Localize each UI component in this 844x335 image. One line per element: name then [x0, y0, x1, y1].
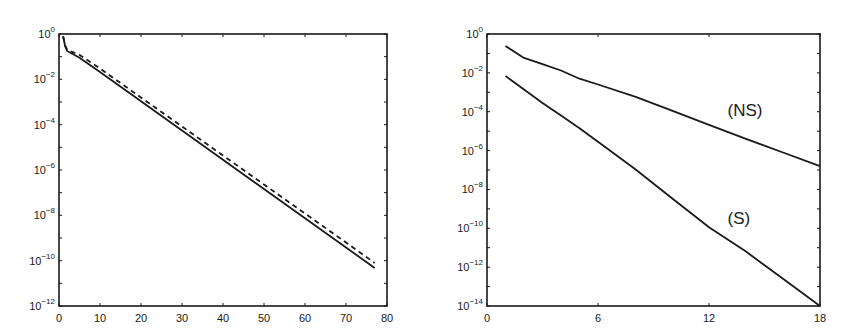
x-tick-label: 80 — [381, 312, 393, 324]
y-tick-label: 10−8 — [34, 206, 56, 221]
series-line-solid — [506, 76, 821, 306]
y-tick-label: 10−4 — [462, 103, 484, 118]
y-tick-label: 100 — [38, 25, 55, 40]
figure: 0102030405060708010010−210−410−610−810−1… — [0, 0, 844, 335]
x-tick-label: 60 — [299, 312, 311, 324]
x-tick-label: 70 — [340, 312, 352, 324]
series-annotation: (S) — [728, 209, 751, 228]
series-line-solid — [63, 36, 375, 268]
y-tick-label: 10−14 — [457, 297, 483, 312]
figure-svg: 0102030405060708010010−210−410−610−810−1… — [0, 0, 844, 335]
x-tick-label: 12 — [703, 312, 715, 324]
series-line-dashed — [63, 36, 375, 263]
y-tick-label: 10−12 — [29, 297, 55, 312]
y-tick-label: 10−8 — [462, 180, 484, 195]
y-tick-label: 10−10 — [457, 219, 483, 234]
right-plot: 06121810010−210−410−610−810−1010−1210−14… — [457, 25, 826, 324]
y-tick-label: 10−10 — [29, 252, 55, 267]
x-tick-label: 0 — [56, 312, 62, 324]
x-tick-label: 30 — [176, 312, 188, 324]
y-tick-label: 100 — [466, 25, 483, 40]
x-tick-label: 18 — [814, 312, 826, 324]
x-tick-label: 0 — [484, 312, 490, 324]
x-tick-label: 20 — [135, 312, 147, 324]
x-tick-label: 50 — [258, 312, 270, 324]
x-tick-label: 10 — [94, 312, 106, 324]
series-annotation: (NS) — [728, 101, 763, 120]
y-tick-label: 10−6 — [34, 161, 56, 176]
y-tick-label: 10−2 — [34, 70, 56, 85]
series-line-solid — [506, 46, 821, 166]
y-tick-label: 10−6 — [462, 142, 484, 157]
x-tick-label: 6 — [595, 312, 601, 324]
axes-box — [487, 34, 820, 306]
axes-box — [59, 34, 387, 306]
y-tick-label: 10−4 — [34, 116, 56, 131]
x-tick-label: 40 — [217, 312, 229, 324]
left-plot: 0102030405060708010010−210−410−610−810−1… — [29, 25, 393, 324]
y-tick-label: 10−2 — [462, 64, 484, 79]
y-tick-label: 10−12 — [457, 258, 483, 273]
